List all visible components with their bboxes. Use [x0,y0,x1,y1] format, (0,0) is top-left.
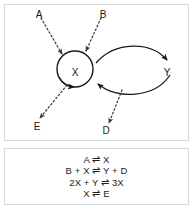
edge-to-d [109,90,122,123]
equation-list: A ⇌ X B + X ⇌ Y + D 2X + Y ⇌ 3X X ⇌ E [5,149,188,204]
screenshot-root: X Y A B D E A ⇌ X B + X ⇌ Y + D 2X + Y ⇌… [0,0,193,209]
reaction-equations-panel: A ⇌ X B + X ⇌ Y + D 2X + Y ⇌ 3X X ⇌ E [4,148,189,205]
node-label-y: Y [164,67,171,78]
node-label-d: D [102,125,109,136]
equation-row: 2X + Y ⇌ 3X [69,177,123,189]
equation-row: B + X ⇌ Y + D [66,165,128,177]
equation-row: A ⇌ X [84,154,110,166]
node-label-e: E [34,121,41,132]
edge-y-to-x [98,75,170,94]
node-label-x: X [72,67,79,78]
reaction-network-svg: X Y A B D E [5,5,188,140]
edge-x-to-e [40,85,67,118]
node-label-a: A [36,9,43,20]
node-label-b: B [100,9,107,20]
edge-x-to-y [96,46,167,63]
edge-b-to-x [86,18,101,51]
equation-row: X ⇌ E [83,188,109,200]
reaction-network-diagram-panel: X Y A B D E [4,4,189,141]
edge-a-to-x [41,18,62,54]
